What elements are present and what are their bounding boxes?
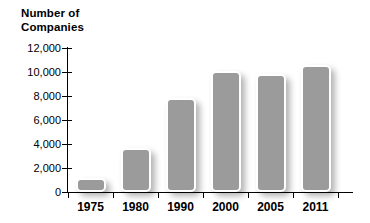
bar-2005 [256,74,286,192]
y-axis-tick-label: 4,000 [33,139,61,150]
bar-1990 [166,98,196,192]
y-axis-tick-label: 8,000 [33,91,61,102]
y-axis-tick-label: 0 [55,187,61,198]
plot-area: 02,0004,0006,0008,00010,00012,000 197519… [0,0,370,223]
y-axis-tick [62,144,72,145]
y-axis-tick-label: 10,000 [27,67,61,78]
x-axis-tick [68,192,69,198]
y-axis-tick [62,192,72,193]
x-axis-tick [158,192,159,198]
y-axis-tick [62,96,72,97]
bar-fill [78,180,104,190]
bar-chart-figure: Number of Companies 02,0004,0006,0008,00… [0,0,370,223]
y-axis-tick [62,48,72,49]
y-axis-tick-label: 6,000 [33,115,61,126]
x-axis-tick [293,192,294,198]
y-axis-tick-label: 12,000 [27,43,61,54]
bar-2011 [301,65,331,192]
bar-fill [123,150,149,190]
y-axis-tick [62,120,72,121]
bar-fill [258,76,284,190]
y-axis-tick-label: 2,000 [33,163,61,174]
bar-fill [213,73,239,190]
x-axis-line [67,192,353,193]
bar-fill [168,100,194,190]
x-axis-tick [113,192,114,198]
x-axis-tick [203,192,204,198]
x-axis-label-2011: 2011 [286,201,346,214]
x-axis-tick [338,192,339,198]
bar-fill [303,67,329,190]
y-axis-tick [62,168,72,169]
x-axis-tick [248,192,249,198]
bar-1975 [76,178,106,192]
bar-1980 [121,148,151,192]
y-axis-tick [62,72,72,73]
bar-2000 [211,71,241,192]
